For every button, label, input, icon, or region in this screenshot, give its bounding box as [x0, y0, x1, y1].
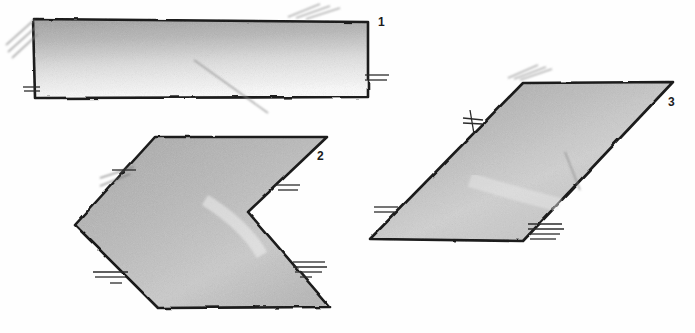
rectangle-fill: [33, 19, 368, 98]
shape-2-group[interactable]: 2: [75, 137, 330, 308]
shape-3-label: 3: [668, 95, 675, 109]
shape-3-group[interactable]: 3: [370, 65, 675, 241]
shape-2-label: 2: [317, 149, 324, 163]
shapes-canvas: 1 2: [0, 0, 695, 333]
shape-1-label: 1: [378, 15, 385, 29]
parallelogram-fill: [370, 82, 673, 241]
shape-1-group[interactable]: 1: [6, 4, 389, 113]
drawing-sheet: 1 2: [0, 0, 695, 333]
